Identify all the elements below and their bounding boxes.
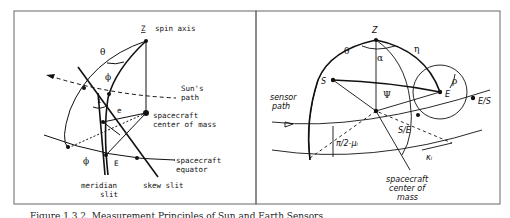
spacecraft-center-point xyxy=(143,110,149,116)
eta-label: η xyxy=(414,44,419,54)
sensor-path-label-2: path xyxy=(271,102,290,111)
alpha-label: α xyxy=(377,53,383,63)
e-point-label: E xyxy=(114,159,119,168)
right-center-label-3: mass xyxy=(397,193,418,202)
suns-path-label-2: path xyxy=(181,93,199,102)
right-center-label-2: center of xyxy=(389,184,426,193)
figure-canvas: Z spin axis θ ϕ Sun's path i e spacecraf… xyxy=(0,0,510,218)
i-label: i xyxy=(97,96,102,105)
z-label: Z xyxy=(141,24,146,33)
phi-bottom-label: ϕ xyxy=(83,156,89,166)
e-label: e xyxy=(117,106,122,115)
skew-slit-label: skew slit xyxy=(143,181,184,190)
theta-label-right: θ xyxy=(344,46,349,56)
sensor-path-label-1: sensor xyxy=(270,93,297,102)
suns-path-label-1: Sun's xyxy=(181,84,204,93)
se-label: S/E xyxy=(398,126,412,135)
psi-label: Ψ xyxy=(383,90,391,100)
z-label-right: Z xyxy=(371,26,378,35)
left-diagram xyxy=(44,41,176,177)
rho-label: ρ xyxy=(452,76,457,86)
meridian-label-2: slit xyxy=(100,190,118,199)
kappa-label: κᵢ xyxy=(426,153,433,162)
spin-axis-label: spin axis xyxy=(155,24,196,33)
meridian-label-1: meridian xyxy=(81,181,117,190)
e-label-right: E xyxy=(445,90,451,99)
spacecraft-center-point xyxy=(374,109,378,113)
theta-label: θ xyxy=(100,47,105,57)
s-label: S xyxy=(321,77,326,86)
meridian-slit xyxy=(98,93,105,175)
center-label-1: spacecraft xyxy=(153,111,198,120)
right-center-label-1: spacecraft xyxy=(386,175,429,184)
es-label: E/S xyxy=(478,97,491,106)
equator-label-1: spacecraft xyxy=(176,156,221,165)
equator-label-2: equator xyxy=(176,165,208,174)
pi-mu-label: π/2-μᵢ xyxy=(336,139,359,148)
left-panel-frame xyxy=(14,11,256,204)
figure-caption: Figure 1.3.2. Measurement Principles of … xyxy=(30,211,323,218)
phi-top-label: ϕ xyxy=(105,72,111,82)
center-label-2: center of mass xyxy=(153,120,216,129)
